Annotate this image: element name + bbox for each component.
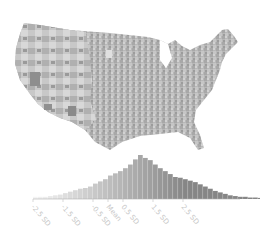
histogram-bar — [203, 187, 208, 199]
histogram-bar — [253, 198, 258, 199]
histogram-bar — [63, 193, 68, 199]
histogram-bar — [73, 190, 78, 199]
histogram-bar — [193, 182, 198, 199]
histogram-bar — [163, 171, 168, 199]
histogram-bar — [158, 168, 163, 199]
histogram-axis-ticks: -2.5 SD-1.5 SD-0.5 SDMean0.5 SD1.5 SD2.5… — [29, 199, 200, 228]
histogram-bar — [58, 195, 63, 199]
tick-label: -1.5 SD — [59, 203, 82, 228]
histogram-bar — [238, 197, 243, 199]
us-county-choropleth-map — [0, 0, 260, 150]
histogram-bar — [153, 165, 158, 199]
histogram-bar — [178, 178, 183, 199]
histogram-bars — [33, 155, 260, 199]
histogram-bar — [248, 198, 253, 199]
histogram-bar — [243, 197, 248, 199]
histogram-bar — [113, 173, 118, 199]
histogram-bar — [68, 192, 73, 199]
histogram-bar — [148, 160, 153, 199]
histogram-bar — [133, 159, 138, 199]
histogram-bar — [123, 168, 128, 199]
histogram-bar — [98, 181, 103, 199]
histogram-bar — [128, 165, 133, 199]
histogram-bar — [208, 189, 213, 199]
histogram-bar — [88, 187, 93, 199]
histogram-bar — [33, 197, 38, 199]
histogram-bar — [258, 198, 260, 199]
tick-label: -2.5 SD — [29, 203, 52, 228]
histogram-bar — [168, 174, 173, 199]
histogram-bar — [188, 181, 193, 199]
histogram-bar — [183, 179, 188, 199]
histogram-bar — [108, 176, 113, 199]
histogram-bar — [53, 195, 58, 199]
histogram-bar — [228, 195, 233, 199]
histogram-bar — [118, 171, 123, 199]
histogram-bar — [213, 191, 218, 199]
histogram-bar — [138, 155, 143, 199]
tick-label: 0.5 SD — [119, 203, 140, 226]
histogram-bar — [218, 192, 223, 199]
histogram-bar — [173, 177, 178, 199]
distribution-histogram-legend: -2.5 SD-1.5 SD-0.5 SDMean0.5 SD1.5 SD2.5… — [0, 140, 260, 245]
histogram-bar — [143, 158, 148, 199]
histogram-bar — [233, 196, 238, 199]
us-outline — [15, 23, 238, 150]
histogram-bar — [38, 197, 43, 199]
histogram-bar — [83, 188, 88, 199]
tick-label: 1.5 SD — [149, 203, 170, 226]
histogram-bar — [48, 196, 53, 199]
histogram-bar — [93, 184, 98, 199]
histogram-bar — [223, 194, 228, 199]
histogram-bar — [43, 197, 48, 199]
histogram-bar — [78, 189, 83, 199]
histogram-bar — [198, 184, 203, 199]
histogram-bar — [103, 179, 108, 199]
tick-label: 2.5 SD — [179, 203, 200, 226]
